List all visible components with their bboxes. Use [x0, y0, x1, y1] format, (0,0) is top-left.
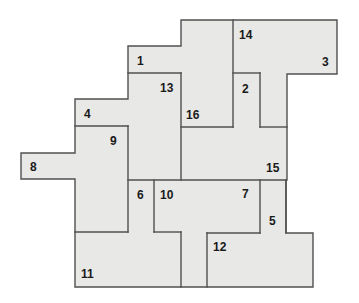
region-label-5: 5	[269, 214, 276, 228]
region-label-4: 4	[84, 107, 91, 121]
region-label-9: 9	[110, 134, 117, 148]
region-label-16: 16	[186, 108, 200, 122]
region-label-11: 11	[81, 267, 94, 281]
region-label-12: 12	[213, 240, 227, 254]
region-label-1: 1	[137, 54, 144, 68]
region-label-15: 15	[266, 161, 280, 175]
region-label-2: 2	[242, 82, 249, 96]
region-label-7: 7	[242, 187, 249, 201]
region-label-13: 13	[160, 81, 174, 95]
region-label-14: 14	[239, 28, 253, 42]
region-label-8: 8	[30, 160, 37, 174]
region-label-3: 3	[322, 55, 329, 69]
region-label-10: 10	[160, 188, 174, 202]
partition-diagram: 12345678910111213141516	[0, 0, 359, 303]
region-label-6: 6	[137, 188, 144, 202]
